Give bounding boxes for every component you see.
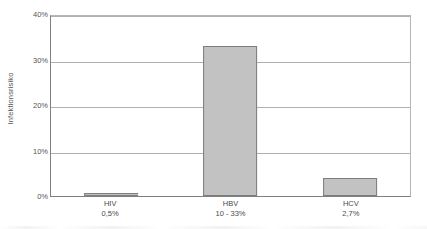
y-tick-label: 0% <box>18 193 48 201</box>
bars-layer <box>51 16 410 196</box>
x-axis-label-value: 0,5% <box>50 209 170 219</box>
x-axis-labels: HIV0,5%HBV10 - 33%HCV2,7% <box>50 199 411 227</box>
x-axis-label-name: HIV <box>50 199 170 209</box>
x-axis-label-hbv: HBV10 - 33% <box>170 199 290 219</box>
bar-hiv[interactable] <box>84 193 138 196</box>
x-axis-label-value: 10 - 33% <box>170 209 290 219</box>
y-axis-title-text: Infektionsrisiko <box>6 72 15 124</box>
y-tick-label: 40% <box>18 11 48 19</box>
x-axis-label-name: HBV <box>170 199 290 209</box>
bar-slot <box>51 16 171 196</box>
plot-area <box>50 15 411 197</box>
y-axis-title: Infektionsrisiko <box>0 0 20 197</box>
y-tick-label: 10% <box>18 148 48 156</box>
x-axis-label-value: 2,7% <box>291 209 411 219</box>
y-tick-label: 20% <box>18 102 48 110</box>
x-axis-label-name: HCV <box>291 199 411 209</box>
scan-artifact <box>0 226 427 229</box>
x-axis-label-hcv: HCV2,7% <box>291 199 411 219</box>
bar-slot <box>290 16 410 196</box>
bar-chart: Infektionsrisiko 0%10%20%30%40% HIV0,5%H… <box>0 0 427 229</box>
y-tick-label: 30% <box>18 57 48 65</box>
x-axis-label-hiv: HIV0,5% <box>50 199 170 219</box>
bar-slot <box>171 16 291 196</box>
y-axis-tick-labels: 0%10%20%30%40% <box>18 0 48 205</box>
bar-hbv[interactable] <box>204 46 258 196</box>
bar-hcv[interactable] <box>323 178 377 196</box>
